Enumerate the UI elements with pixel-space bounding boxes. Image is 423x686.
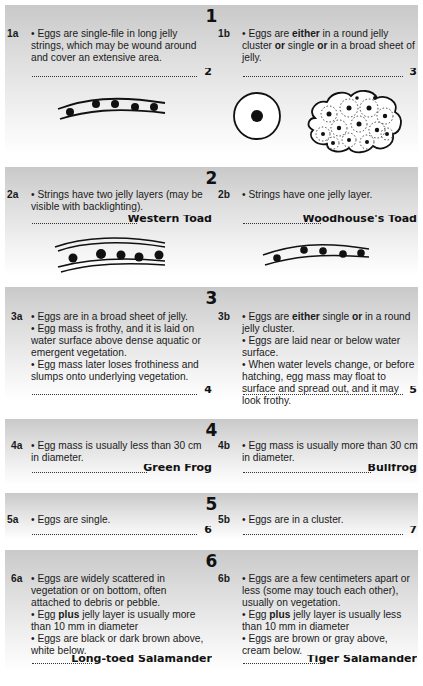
species-leader[interactable]: Long-toed Salamander: [32, 655, 212, 671]
description-line: • Egg mass is usually more than 30 cm in…: [242, 440, 418, 464]
couplet-text: • Eggs are a few centimeters apart or le…: [242, 573, 418, 657]
couplet-text: • Strings have one jelly layer.: [242, 189, 418, 201]
couplet-block-6: 6 6a • Eggs are widely scattered in vege…: [5, 550, 418, 672]
species-leader[interactable]: Bullfrog: [243, 464, 417, 480]
couplet-label: 4b: [218, 440, 230, 452]
couplet-number: 6: [5, 553, 418, 570]
goto-leader[interactable]: 3: [243, 68, 417, 82]
double-jelly-string-icon: [53, 237, 171, 277]
dotted-leader: [243, 68, 403, 77]
goto-number[interactable]: 4: [204, 386, 212, 396]
description-line: • Eggs are either single or in a round j…: [242, 311, 418, 335]
goto-leader[interactable]: 7: [243, 526, 417, 540]
couplet-text: • Eggs are in a broad sheet of jelly. • …: [31, 311, 201, 383]
couplet-block-1: 1 1a • Eggs are single-file in long jell…: [5, 5, 418, 155]
dotted-leader: [243, 464, 371, 473]
species-name[interactable]: Western Toad: [128, 215, 212, 225]
couplet-number: 1: [5, 8, 418, 25]
species-name[interactable]: Woodhouse's Toad: [302, 215, 417, 225]
species-name[interactable]: Tiger Salamander: [307, 655, 417, 665]
couplet-text: • Eggs are in a cluster.: [242, 514, 418, 526]
species-leader[interactable]: Tiger Salamander: [243, 655, 417, 671]
dotted-leader: [32, 68, 197, 77]
description-line: • Eggs are brown or gray above, cream be…: [242, 633, 418, 657]
description-line: • Eggs are a few centimeters apart or le…: [242, 573, 418, 609]
dotted-leader: [32, 386, 197, 395]
description-line: • Eggs are single-file in long jelly str…: [31, 28, 207, 64]
couplet-label: 5b: [218, 514, 230, 526]
single-egg-icon: [231, 90, 283, 142]
couplet-number: 3: [5, 290, 418, 307]
couplet-label: 4a: [11, 440, 22, 452]
description-line: • Egg plus jelly layer is usually less t…: [242, 609, 418, 633]
couplet-label: 3b: [218, 311, 230, 323]
couplet-number: 5: [5, 496, 418, 513]
goto-leader[interactable]: 6: [32, 526, 212, 540]
couplet-label: 6b: [218, 573, 230, 585]
dotted-leader: [243, 526, 403, 535]
description-line: • Eggs are either in a round jelly clust…: [242, 28, 418, 64]
couplet-block-3: 3 3a • Eggs are in a broad sheet of jell…: [5, 287, 418, 400]
description-line: • Egg plus jelly layer is usually more t…: [31, 609, 207, 633]
couplet-label: 2a: [7, 189, 18, 201]
species-leader[interactable]: Green Frog: [32, 464, 212, 480]
single-jelly-string-icon: [55, 95, 170, 127]
description-line: • Strings have one jelly layer.: [242, 189, 418, 201]
goto-number[interactable]: 7: [409, 526, 417, 536]
couplet-label: 1b: [218, 28, 230, 40]
couplet-block-2: 2 2a • Strings have two jelly layers (ma…: [5, 167, 418, 275]
couplet-number: 4: [5, 422, 418, 439]
description-line: • Eggs are single.: [31, 514, 207, 526]
couplet-text: • Egg mass is usually less than 30 cm in…: [31, 440, 203, 464]
description-line: • Eggs are in a broad sheet of jelly.: [31, 311, 201, 323]
description-line: • Eggs are widely scattered in vegetatio…: [31, 573, 207, 609]
description-line: • Egg mass is usually less than 30 cm in…: [31, 440, 203, 464]
dotted-leader: [32, 464, 147, 473]
goto-leader[interactable]: 4: [32, 386, 212, 400]
couplet-text: • Eggs are widely scattered in vegetatio…: [31, 573, 207, 657]
couplet-text: • Eggs are either in a round jelly clust…: [242, 28, 418, 64]
dotted-leader: [32, 215, 137, 224]
couplet-block-5: 5 5a • Eggs are single. 6 5b • Eggs are …: [5, 493, 418, 540]
description-line: • Eggs are laid near or below water surf…: [242, 335, 418, 359]
couplet-text: • Eggs are single.: [31, 514, 207, 526]
single-jelly-string-icon: [261, 241, 373, 271]
description-line: • Eggs are in a cluster.: [242, 514, 418, 526]
description-line: • Egg mass later loses frothiness and sl…: [31, 359, 201, 383]
couplet-label: 1a: [7, 28, 18, 40]
couplet-block-4: 4 4a • Egg mass is usually less than 30 …: [5, 419, 418, 485]
couplet-text: • Strings have two jelly layers (may be …: [31, 189, 207, 213]
couplet-text: • Eggs are single-file in long jelly str…: [31, 28, 207, 64]
species-name[interactable]: Long-toed Salamander: [71, 655, 212, 665]
goto-number[interactable]: 5: [409, 386, 417, 396]
couplet-number: 2: [5, 170, 418, 187]
goto-leader[interactable]: 2: [32, 68, 212, 82]
description-line: • Eggs are black or dark brown above, wh…: [31, 633, 207, 657]
couplet-label: 3a: [11, 311, 22, 323]
goto-number[interactable]: 6: [204, 526, 212, 536]
species-name[interactable]: Bullfrog: [368, 464, 417, 474]
description-line: • Egg mass is frothy, and it is laid on …: [31, 323, 201, 359]
couplet-label: 5a: [7, 514, 18, 526]
goto-number[interactable]: 3: [409, 68, 417, 78]
couplet-text: • Egg mass is usually more than 30 cm in…: [242, 440, 418, 464]
couplet-label: 2b: [218, 189, 230, 201]
couplet-label: 6a: [11, 573, 22, 585]
species-leader[interactable]: Western Toad: [32, 215, 212, 231]
dotted-leader: [243, 386, 403, 395]
species-leader[interactable]: Woodhouse's Toad: [243, 215, 417, 231]
egg-cluster-icon: [305, 88, 405, 156]
goto-leader[interactable]: 5: [243, 386, 417, 400]
description-line: • Strings have two jelly layers (may be …: [31, 189, 207, 213]
goto-number[interactable]: 2: [204, 68, 212, 78]
dotted-leader: [32, 526, 197, 535]
species-name[interactable]: Green Frog: [143, 464, 212, 474]
